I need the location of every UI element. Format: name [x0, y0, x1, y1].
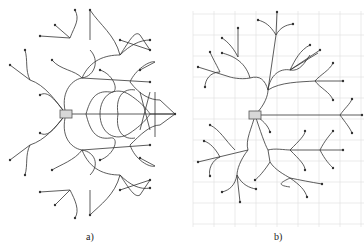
panel-a-tree: [10, 10, 175, 218]
panel-b-tree: [198, 12, 362, 202]
panel-a-label: a): [86, 231, 94, 242]
panel-b-grid: [193, 11, 364, 227]
panel-b-label: b): [274, 231, 282, 242]
panel-b-nodes: [197, 11, 363, 203]
figure-canvas: [0, 0, 364, 252]
panel-b-root-node: [249, 111, 261, 119]
panel-a-root-node: [60, 110, 72, 118]
